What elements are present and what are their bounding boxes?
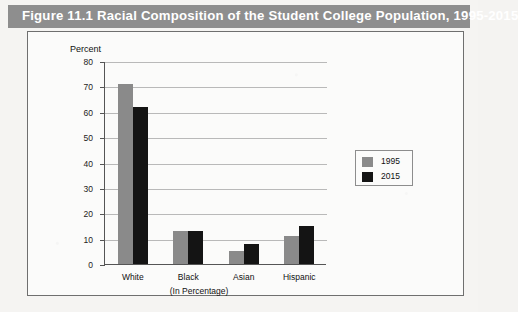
x-axis-label-black: Black [158,272,218,282]
y-axis-tick-label: 40 [75,159,93,169]
x-axis-label-hispanic: Hispanic [269,272,329,282]
y-axis-tick-label: 70 [75,82,93,92]
y-axis-tick [100,214,105,215]
plot-area: 01020304050607080WhiteBlackAsianHispanic [104,62,326,265]
x-axis-title-text: (In Percentage) [170,286,229,296]
y-axis-tick [100,87,105,88]
y-axis-tick-label: 10 [75,235,93,245]
y-axis-tick-label: 80 [75,57,93,67]
x-axis-label-white: White [103,272,163,282]
bar-hispanic-2015 [299,226,314,264]
legend-swatch-1995 [362,157,373,167]
legend-label-2015: 2015 [381,171,400,181]
bar-black-2015 [188,231,203,264]
y-axis-title: Percent [70,44,101,54]
y-axis-tick-label: 30 [75,184,93,194]
y-axis-tick [100,138,105,139]
y-axis-tick-label: 60 [75,108,93,118]
x-axis-label-asian: Asian [214,272,274,282]
y-axis-tick [100,240,105,241]
bar-hispanic-1995 [284,236,299,264]
y-axis-tick-label: 50 [75,133,93,143]
y-axis-tick-label: 0 [75,260,93,270]
y-axis-tick [100,62,105,63]
gridline [105,87,327,88]
bar-asian-2015 [244,244,259,264]
y-axis-tick [100,113,105,114]
chart-legend: 19952015 [355,150,413,186]
bar-white-1995 [118,84,133,264]
gridline [105,62,327,63]
figure-title: Figure 11.1 Racial Composition of the St… [22,8,518,23]
y-axis-tick [100,164,105,165]
legend-label-1995: 1995 [381,156,400,166]
x-axis-title: (In Percentage) [0,286,478,296]
y-axis-tick [100,189,105,190]
bar-black-1995 [173,231,188,264]
bar-white-2015 [133,107,148,264]
figure-title-banner: Figure 11.1 Racial Composition of the St… [8,5,470,28]
y-axis-tick [100,265,105,266]
bar-asian-1995 [229,251,244,264]
legend-swatch-2015 [362,172,373,182]
y-axis-tick-label: 20 [75,209,93,219]
